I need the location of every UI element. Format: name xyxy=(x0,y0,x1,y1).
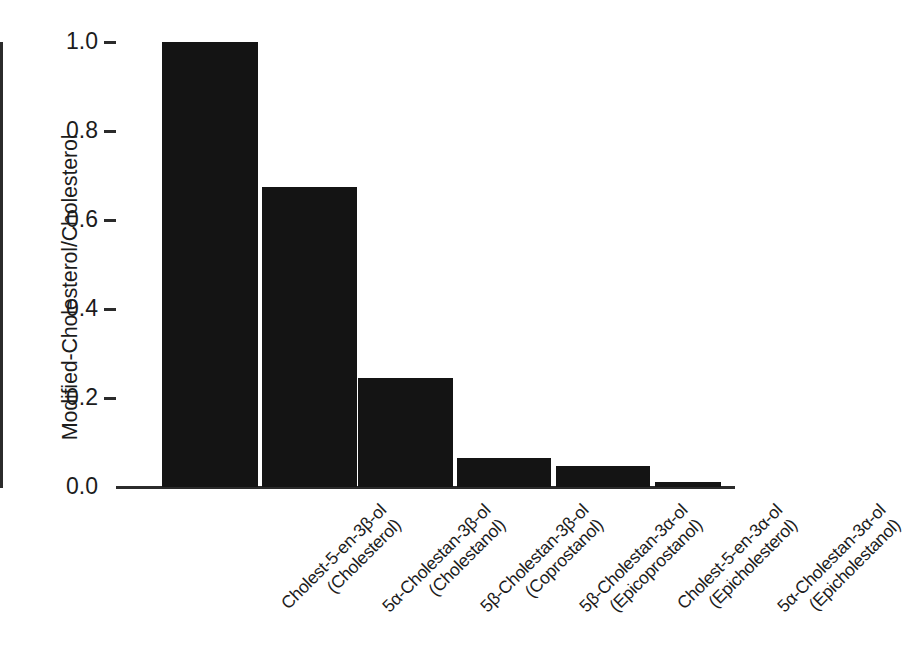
y-tick-mark-1 xyxy=(104,41,116,44)
bar-cholesterol xyxy=(162,42,258,487)
y-tick-mark-4 xyxy=(104,308,116,311)
plot-area xyxy=(116,42,733,487)
y-axis-line xyxy=(0,42,3,488)
y-tick-label-1: 1.0 xyxy=(40,30,98,53)
y-tick-mark-2 xyxy=(104,130,116,133)
bar-epicholesterol xyxy=(556,466,650,487)
y-tick-mark-5 xyxy=(104,397,116,400)
y-tick-label-6: 0.0 xyxy=(40,475,98,498)
y-tick-label-5: 0.2 xyxy=(40,386,98,409)
x-tick-label-epicholestanol: 5α-Cholestan-3α-ol (Epicholestanol) xyxy=(773,500,905,632)
y-tick-label-3: 0.6 xyxy=(40,208,98,231)
bar-coprostanol xyxy=(358,378,453,487)
bar-epicholestanol xyxy=(655,482,721,487)
y-axis-tick-labels: 1.0 0.8 0.6 0.4 0.2 0.0 xyxy=(34,0,98,666)
bar-cholestanol xyxy=(262,187,357,487)
y-tick-label-2: 0.8 xyxy=(40,119,98,142)
y-tick-label-4: 0.4 xyxy=(40,297,98,320)
bar-epicoprostanol xyxy=(457,458,551,487)
y-tick-mark-3 xyxy=(104,219,116,222)
